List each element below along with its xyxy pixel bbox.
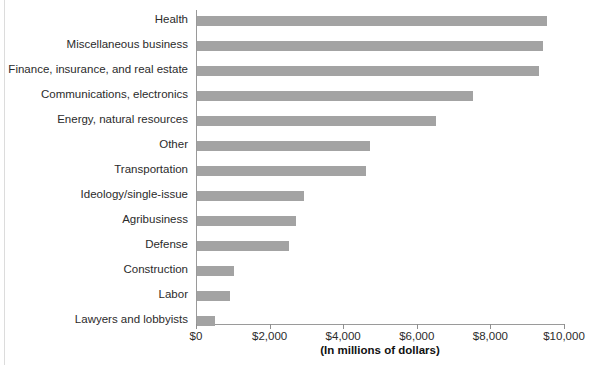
bar-category-label: Health xyxy=(0,12,188,26)
bar-category-label: Labor xyxy=(0,287,188,301)
bar-category-label: Agribusiness xyxy=(0,212,188,226)
bar-track xyxy=(197,16,547,26)
bar-track xyxy=(197,141,370,151)
bar xyxy=(197,66,539,76)
bar xyxy=(197,41,543,51)
bar-chart: HealthMiscellaneous businessFinance, ins… xyxy=(0,0,605,365)
bar-track xyxy=(197,166,366,176)
x-tick-mark xyxy=(343,324,344,329)
bar-row: Ideology/single-issue xyxy=(0,187,605,212)
bar-category-label: Communications, electronics xyxy=(0,87,188,101)
bar-row: Agribusiness xyxy=(0,212,605,237)
bar-row: Communications, electronics xyxy=(0,87,605,112)
bar-track xyxy=(197,191,304,201)
x-tick-label: $10,000 xyxy=(543,330,585,342)
x-axis-title: (In millions of dollars) xyxy=(196,344,564,356)
bar-track xyxy=(197,266,234,276)
bar xyxy=(197,16,547,26)
bar-category-label: Transportation xyxy=(0,162,188,176)
x-tick-mark xyxy=(490,324,491,329)
bar-track xyxy=(197,91,473,101)
bar xyxy=(197,116,436,126)
x-tick-mark xyxy=(564,324,565,329)
bar-category-label: Miscellaneous business xyxy=(0,37,188,51)
bar-row: Energy, natural resources xyxy=(0,112,605,137)
bar-row: Labor xyxy=(0,287,605,312)
bar-track xyxy=(197,66,539,76)
bar xyxy=(197,166,366,176)
bar-category-label: Construction xyxy=(0,262,188,276)
bar-category-label: Ideology/single-issue xyxy=(0,187,188,201)
bar-track xyxy=(197,291,230,301)
bar-row: Health xyxy=(0,12,605,37)
x-tick-label: $4,000 xyxy=(326,330,361,342)
x-tick-mark xyxy=(196,324,197,329)
bar-row: Construction xyxy=(0,262,605,287)
bar-row: Other xyxy=(0,137,605,162)
x-tick-mark xyxy=(417,324,418,329)
bar-category-label: Energy, natural resources xyxy=(0,112,188,126)
bar-category-label: Finance, insurance, and real estate xyxy=(0,62,188,76)
plot-area: HealthMiscellaneous businessFinance, ins… xyxy=(0,0,605,365)
x-tick-label: $2,000 xyxy=(252,330,287,342)
bar-category-label: Defense xyxy=(0,237,188,251)
bar-category-label: Other xyxy=(0,137,188,151)
bar-track xyxy=(197,41,543,51)
bar xyxy=(197,241,289,251)
bar-row: Defense xyxy=(0,237,605,262)
bar xyxy=(197,291,230,301)
bar xyxy=(197,91,473,101)
bar xyxy=(197,141,370,151)
bar xyxy=(197,266,234,276)
bar-row: Transportation xyxy=(0,162,605,187)
bar-track xyxy=(197,216,296,226)
x-tick-mark xyxy=(270,324,271,329)
x-axis-ticks: $0$2,000$4,000$6,000$8,000$10,000 xyxy=(0,324,605,344)
bar-track xyxy=(197,241,289,251)
x-tick-label: $8,000 xyxy=(473,330,508,342)
bar xyxy=(197,191,304,201)
bar-track xyxy=(197,116,436,126)
x-tick-label: $6,000 xyxy=(399,330,434,342)
bar-row: Miscellaneous business xyxy=(0,37,605,62)
bar xyxy=(197,216,296,226)
x-tick-label: $0 xyxy=(190,330,203,342)
bar-row: Finance, insurance, and real estate xyxy=(0,62,605,87)
bar-rows: HealthMiscellaneous businessFinance, ins… xyxy=(0,12,605,337)
